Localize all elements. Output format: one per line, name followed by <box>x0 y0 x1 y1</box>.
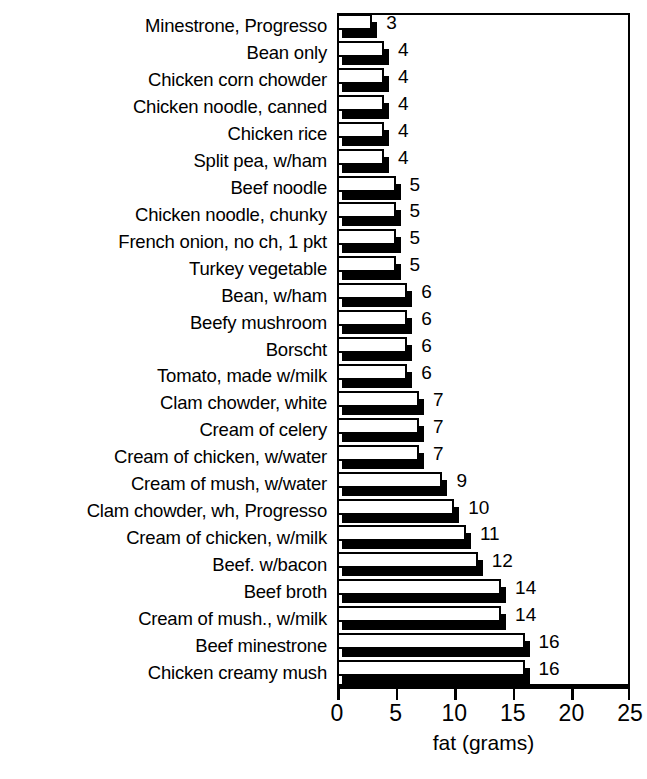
x-axis-tick <box>454 689 457 700</box>
fat-grams-bar-chart: Minestrone, ProgressoBean onlyChicken co… <box>0 0 647 779</box>
bar-group: 5 <box>337 176 486 203</box>
category-label: Chicken rice <box>0 125 327 144</box>
category-label: Chicken noodle, canned <box>0 98 327 117</box>
bar-group: 16 <box>337 660 615 687</box>
bar-value-label: 16 <box>539 632 560 651</box>
bar-value-label: 9 <box>456 471 467 490</box>
bar <box>337 310 407 326</box>
bar <box>337 337 407 353</box>
category-label: Beef. w/bacon <box>0 556 327 575</box>
bar-group: 6 <box>337 364 497 391</box>
bar-value-label: 5 <box>410 175 421 194</box>
bar-group: 3 <box>337 14 462 41</box>
bar-value-label: 4 <box>398 94 409 113</box>
bar-value-label: 6 <box>421 336 432 355</box>
bar <box>337 256 396 272</box>
bar <box>337 95 384 111</box>
bar <box>337 391 419 407</box>
bar <box>337 418 419 434</box>
bar-group: 4 <box>337 122 474 149</box>
bar-value-label: 12 <box>492 551 513 570</box>
category-label: Cream of chicken, w/water <box>0 448 327 467</box>
x-axis-title: fat (grams) <box>337 731 630 755</box>
bar-value-label: 4 <box>398 40 409 59</box>
bar-value-label: 4 <box>398 148 409 167</box>
bar <box>337 176 396 192</box>
bar <box>337 579 501 595</box>
bar-group: 16 <box>337 633 615 660</box>
x-axis-tick <box>628 689 631 700</box>
bar-group: 14 <box>337 606 591 633</box>
category-label: Clam chowder, white <box>0 394 327 413</box>
category-label: Beef minestrone <box>0 637 327 656</box>
bar-group: 4 <box>337 41 474 68</box>
bar-group: 11 <box>337 525 556 552</box>
bar-group: 4 <box>337 68 474 95</box>
category-label: Minestrone, Progresso <box>0 17 327 36</box>
category-label: Borscht <box>0 341 327 360</box>
x-axis-tick-label: 20 <box>559 700 585 726</box>
category-axis-labels: Minestrone, ProgressoBean onlyChicken co… <box>0 13 332 686</box>
category-label: Cream of chicken, w/milk <box>0 529 327 548</box>
x-axis-tick <box>513 689 516 700</box>
category-label: Tomato, made w/milk <box>0 367 327 386</box>
bar-value-label: 7 <box>433 444 444 463</box>
bar-group: 5 <box>337 202 486 229</box>
category-label: Beef noodle <box>0 179 327 198</box>
x-axis-tick-label: 5 <box>389 700 402 726</box>
category-label: Bean, w/ham <box>0 287 327 306</box>
category-label: Beefy mushroom <box>0 314 327 333</box>
category-label: Chicken corn chowder <box>0 71 327 90</box>
x-axis-tick <box>571 689 574 700</box>
category-label: Clam chowder, wh, Progresso <box>0 502 327 521</box>
category-label: Chicken creamy mush <box>0 664 327 683</box>
x-axis-tick-labels: 0510152025 <box>337 700 637 728</box>
bar-value-label: 3 <box>386 13 397 32</box>
bar <box>337 149 384 165</box>
category-label: Split pea, w/ham <box>0 152 327 171</box>
bar-group: 5 <box>337 229 486 256</box>
bar-group: 9 <box>337 472 532 499</box>
x-axis-tick <box>396 689 399 700</box>
bar-group: 6 <box>337 337 497 364</box>
bar <box>337 445 419 461</box>
bar-group: 12 <box>337 552 568 579</box>
bar <box>337 283 407 299</box>
category-label: Cream of mush, w/water <box>0 475 327 494</box>
bars-layer: 34444455556666777910111214141616 <box>337 13 637 686</box>
bar-group: 10 <box>337 499 544 526</box>
bar-group: 6 <box>337 310 497 337</box>
bar-value-label: 6 <box>421 282 432 301</box>
bar-value-label: 11 <box>480 524 500 543</box>
bar-value-label: 14 <box>515 605 536 624</box>
bar-group: 14 <box>337 579 591 606</box>
bar <box>337 68 384 84</box>
bar-group: 4 <box>337 95 474 122</box>
bar-group: 6 <box>337 283 497 310</box>
bar-value-label: 4 <box>398 121 409 140</box>
category-label: Chicken noodle, chunky <box>0 206 327 225</box>
bar-value-label: 7 <box>433 390 444 409</box>
category-label: Bean only <box>0 44 327 63</box>
category-label: Turkey vegetable <box>0 260 327 279</box>
bar <box>337 633 525 649</box>
bar <box>337 660 525 676</box>
x-axis-tick-label: 25 <box>617 700 643 726</box>
category-label: Cream of mush., w/milk <box>0 610 327 629</box>
bar <box>337 364 407 380</box>
bar-value-label: 6 <box>421 309 432 328</box>
bar-group: 7 <box>337 445 509 472</box>
bar-group: 7 <box>337 391 509 418</box>
bar <box>337 202 396 218</box>
bar-value-label: 5 <box>410 201 421 220</box>
bar-value-label: 14 <box>515 578 536 597</box>
x-axis-tick-label: 10 <box>441 700 467 726</box>
category-label: Beef broth <box>0 583 327 602</box>
x-axis-tick <box>337 689 340 700</box>
bar <box>337 499 454 515</box>
bar-group: 5 <box>337 256 486 283</box>
bar <box>337 606 501 622</box>
bar <box>337 41 384 57</box>
category-label: French onion, no ch, 1 pkt <box>0 233 327 252</box>
category-label: Cream of celery <box>0 421 327 440</box>
